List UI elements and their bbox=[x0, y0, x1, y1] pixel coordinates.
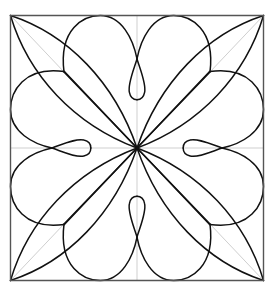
pattern-group bbox=[11, 16, 264, 281]
floral-tile-diagram bbox=[0, 0, 271, 284]
